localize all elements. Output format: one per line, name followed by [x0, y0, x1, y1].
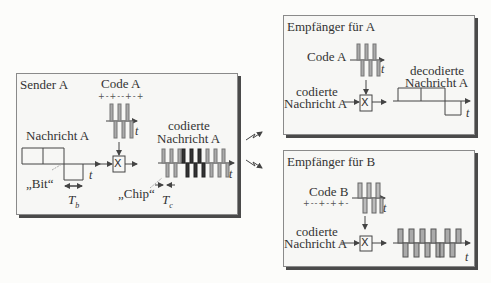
receiver-a-multiplier-symbol: X	[361, 96, 369, 110]
chip-label: „Chip“	[118, 187, 155, 201]
receiver-b-code-waveform	[352, 183, 385, 213]
receiver-b-input-line2: Nachricht A	[284, 237, 347, 251]
receiver-a-code-label: Code A	[307, 50, 346, 64]
receiver-a-code-time-axis: t	[381, 62, 384, 76]
code-a-waveform	[106, 104, 137, 138]
encoded-time-axis: t	[229, 167, 232, 181]
bit-period-subscript: b	[75, 201, 79, 210]
receiver-a-title: Empfänger für A	[287, 20, 375, 34]
receiver-a-input-line2: Nachricht A	[284, 97, 347, 111]
receiver-b-code-time-axis: t	[383, 201, 386, 215]
multiplier-symbol: X	[114, 157, 122, 171]
encoded-label-line2: Nachricht A	[157, 132, 220, 146]
receiver-a-output-line2: Nachricht A	[405, 76, 468, 90]
message-label: Nachricht A	[26, 129, 89, 143]
chip-period-label: Tc	[162, 193, 173, 213]
receiver-b-code-label: Code B	[309, 185, 348, 199]
encoded-message-a-waveform	[158, 149, 234, 177]
receiver-a-code-waveform	[350, 44, 384, 76]
receiver-b-output-waveform	[393, 229, 470, 257]
receiver-b-multiplier-symbol: X	[361, 236, 369, 250]
sender-code-sequence: +-+--+-+	[98, 92, 144, 101]
radio-link-a	[246, 132, 262, 140]
message-time-axis: t	[89, 168, 92, 182]
sender-title: Sender A	[20, 78, 68, 92]
code-a-time-axis: t	[135, 124, 138, 138]
sender-code-label: Code A	[101, 77, 140, 91]
chip-period-subscript: c	[169, 201, 173, 210]
receiver-b-code-sequence: +--+-++-	[303, 199, 349, 208]
radio-link-b	[246, 160, 262, 168]
bit-label: „Bit“	[26, 177, 53, 191]
receiver-b-title: Empfänger für B	[287, 155, 375, 169]
bit-period-label: Tb	[68, 193, 79, 213]
decoded-message-a-waveform	[393, 88, 470, 115]
receiver-b-output-time-axis: t	[465, 250, 468, 264]
receiver-a-output-time-axis: t	[466, 106, 469, 120]
